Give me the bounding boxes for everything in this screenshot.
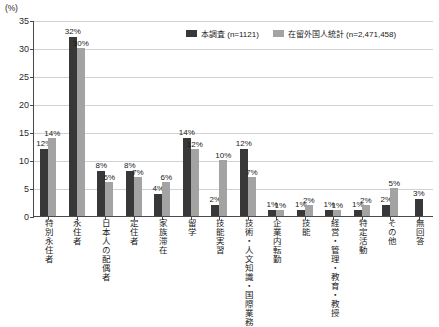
- bar[interactable]: 12%: [40, 149, 48, 216]
- x-axis-label-text: その他: [386, 219, 395, 246]
- bar[interactable]: 1%: [354, 210, 362, 216]
- x-axis-label: 技術・人文知識・国際業務: [233, 219, 262, 319]
- bar-group: 12%14%: [34, 21, 63, 216]
- bar[interactable]: 12%: [240, 149, 248, 216]
- x-axis-label-text: 永住者: [71, 219, 80, 246]
- bar-group: 1%2%: [348, 21, 377, 216]
- bar-value-label: 14%: [44, 130, 60, 138]
- bar[interactable]: 1%: [325, 210, 333, 216]
- bar-value-label: 10%: [215, 152, 231, 160]
- x-axis-label: 永住者: [62, 219, 91, 319]
- bar-value-label: 14%: [179, 129, 195, 137]
- bar-value-label: 12%: [236, 140, 252, 148]
- bar-value-label: 7%: [246, 169, 258, 177]
- legend-item[interactable]: 本調査 (n=1121): [186, 28, 259, 39]
- plot-area: 12%14%32%30%8%6%8%7%4%6%14%12%2%10%12%7%…: [33, 21, 433, 217]
- x-axis-label: 特定活動: [347, 219, 376, 319]
- bar[interactable]: 10%: [219, 160, 227, 216]
- x-axis-label: 技能実習: [204, 219, 233, 319]
- bar[interactable]: 8%: [126, 171, 134, 216]
- bar-group: 8%6%: [91, 21, 120, 216]
- bar[interactable]: 7%: [134, 177, 142, 216]
- bar-value-label: 32%: [65, 28, 81, 36]
- bar[interactable]: 12%: [191, 149, 199, 216]
- bar-value-label: 7%: [132, 169, 144, 177]
- bar[interactable]: 7%: [248, 177, 256, 216]
- legend-label: 在留外国人統計 (n=2,471,458): [288, 28, 396, 39]
- x-axis-label: その他: [376, 219, 405, 319]
- x-axis-label-text: 特定活動: [357, 219, 366, 255]
- bar[interactable]: 2%: [305, 205, 313, 216]
- y-axis-tick-labels: 05101520253035: [0, 21, 29, 217]
- bar[interactable]: 1%: [276, 210, 284, 216]
- bar-value-label: 3%: [413, 190, 425, 198]
- bar-value-label: 2%: [360, 197, 372, 205]
- bar-group: 2%5%: [376, 21, 405, 216]
- bar[interactable]: 3%: [415, 199, 423, 216]
- y-axis-tick-5: 5: [24, 185, 29, 194]
- chart-legend: 本調査 (n=1121)在留外国人統計 (n=2,471,458): [186, 28, 396, 39]
- x-axis-label-text: 家族滞在: [157, 219, 166, 255]
- x-axis-category-labels: 特別永住者永住者日本人の配偶者定住者家族滞在留学技能実習技術・人文知識・国際業務…: [33, 219, 433, 319]
- bar-value-label: 1%: [331, 202, 343, 210]
- bar[interactable]: 5%: [390, 188, 398, 216]
- x-axis-label-text: 技術・人文知識・国際業務: [243, 219, 252, 327]
- bar[interactable]: 2%: [382, 205, 390, 216]
- x-axis-label: 特別永住者: [33, 219, 62, 319]
- y-axis-tick-25: 25: [19, 73, 29, 82]
- bar-value-label: 12%: [187, 141, 203, 149]
- bar-value-label: 6%: [103, 174, 115, 182]
- bar-group: 1%2%: [291, 21, 320, 216]
- x-axis-label-text: 無回答: [414, 219, 423, 246]
- bar-groups: 12%14%32%30%8%6%8%7%4%6%14%12%2%10%12%7%…: [34, 21, 433, 216]
- bar-group: 3%: [405, 21, 434, 216]
- y-axis-tick-35: 35: [19, 17, 29, 26]
- x-axis-label: 技能: [290, 219, 319, 319]
- x-axis-label: 家族滞在: [147, 219, 176, 319]
- bar-group: 4%6%: [148, 21, 177, 216]
- bar[interactable]: 32%: [69, 37, 77, 216]
- bar-value-label: 2%: [303, 197, 315, 205]
- x-axis-label: 企業内転勤: [262, 219, 291, 319]
- bar-value-label: 5%: [388, 180, 400, 188]
- bar[interactable]: 6%: [105, 182, 113, 216]
- bar-value-label: 30%: [73, 40, 89, 48]
- bar-group: 2%10%: [205, 21, 234, 216]
- bar-value-label: 1%: [274, 202, 286, 210]
- bar[interactable]: 1%: [268, 210, 276, 216]
- x-axis-label-text: 特別永住者: [43, 219, 52, 264]
- bar-group: 12%7%: [234, 21, 263, 216]
- x-axis-label-text: 経営・管理・教育・教授: [329, 219, 338, 318]
- legend-label: 本調査 (n=1121): [201, 28, 259, 39]
- bar[interactable]: 14%: [48, 138, 56, 216]
- legend-item[interactable]: 在留外国人統計 (n=2,471,458): [273, 28, 396, 39]
- x-axis-label-text: 企業内転勤: [271, 219, 280, 264]
- bar-value-label: 6%: [160, 174, 172, 182]
- x-axis-label-text: 定住者: [129, 219, 138, 246]
- x-axis-label-text: 技能: [300, 219, 309, 237]
- x-axis-label-text: 技能実習: [214, 219, 223, 255]
- x-axis-label-text: 日本人の配偶者: [100, 219, 109, 282]
- y-axis-tick-10: 10: [19, 157, 29, 166]
- x-axis-label: 日本人の配偶者: [90, 219, 119, 319]
- x-axis-label: 定住者: [119, 219, 148, 319]
- bar[interactable]: 1%: [333, 210, 341, 216]
- legend-swatch-icon: [273, 30, 284, 37]
- y-axis-unit-label: (%): [5, 3, 18, 13]
- bar[interactable]: 6%: [162, 182, 170, 216]
- bar[interactable]: 2%: [362, 205, 370, 216]
- bar[interactable]: 14%: [183, 138, 191, 216]
- legend-swatch-icon: [186, 30, 197, 37]
- x-axis-label: 留学: [176, 219, 205, 319]
- bar-group: 14%12%: [177, 21, 206, 216]
- bar-group: 32%30%: [63, 21, 92, 216]
- bar[interactable]: 1%: [297, 210, 305, 216]
- bar[interactable]: 30%: [77, 48, 85, 216]
- y-axis-tick-20: 20: [19, 101, 29, 110]
- bar-group: 8%7%: [120, 21, 149, 216]
- bar[interactable]: 4%: [154, 194, 162, 216]
- bar[interactable]: 2%: [211, 205, 219, 216]
- x-axis-label-text: 留学: [186, 219, 195, 237]
- x-axis-label: 経営・管理・教育・教授: [319, 219, 348, 319]
